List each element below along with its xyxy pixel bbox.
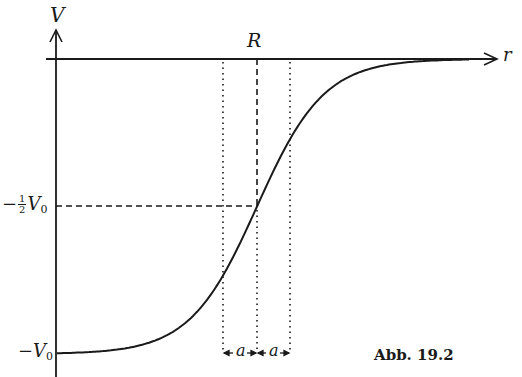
half-depth-minus: − xyxy=(2,193,17,214)
woods-saxon-diagram xyxy=(0,0,522,377)
depth-subscript: 0 xyxy=(46,350,53,363)
half-depth-label: −12V0 xyxy=(2,194,47,215)
radius-label: R xyxy=(247,31,261,50)
y-axis-label: V xyxy=(50,5,64,25)
half-depth-subscript: 0 xyxy=(40,203,47,216)
x-axis-label: r xyxy=(503,46,512,64)
depth-minus: − xyxy=(18,340,33,361)
diffuseness-arrows xyxy=(224,351,289,356)
half-fraction: 12 xyxy=(18,194,26,215)
depth-symbol: V xyxy=(33,340,46,361)
figure-caption: Abb. 19.2 xyxy=(374,346,454,364)
half-depth-symbol: V xyxy=(27,193,40,214)
diffuseness-label-left: a xyxy=(236,343,246,359)
fraction-denominator: 2 xyxy=(18,205,26,215)
diffuseness-label-right: a xyxy=(269,343,279,359)
depth-label: −V0 xyxy=(18,342,53,362)
